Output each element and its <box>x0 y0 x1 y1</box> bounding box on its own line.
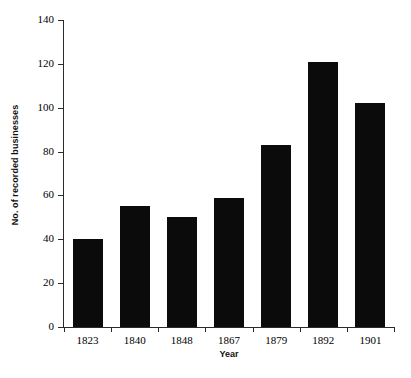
y-axis-tick: 20 <box>58 283 64 284</box>
bar <box>167 217 197 327</box>
y-axis-tick: 100 <box>58 108 64 109</box>
y-axis-tick-label: 0 <box>49 320 55 333</box>
y-axis-tick-label: 100 <box>38 101 55 114</box>
y-axis-tick-label: 140 <box>38 13 55 26</box>
x-axis-tick <box>394 328 395 332</box>
y-axis-tick: 40 <box>58 239 64 240</box>
x-axis-tick-label: 1901 <box>347 334 394 347</box>
x-axis-tick-label: 1840 <box>111 334 158 347</box>
y-axis-tick: 140 <box>58 20 64 21</box>
x-axis-title: Year <box>64 349 394 359</box>
y-axis-tick-label: 120 <box>38 57 55 70</box>
y-axis-tick-label: 40 <box>43 232 54 245</box>
y-axis-tick-label: 60 <box>43 188 54 201</box>
plot-area: 020406080100120140 182318401848186718791… <box>64 20 394 327</box>
bar-chart: No. of recorded businesses 0204060801001… <box>0 0 411 378</box>
x-axis-tick <box>64 328 65 332</box>
x-axis-tick <box>253 328 254 332</box>
bar <box>355 103 385 327</box>
y-axis-title: No. of recorded businesses <box>0 0 30 330</box>
x-axis-line <box>63 327 395 328</box>
y-axis-tick: 120 <box>58 64 64 65</box>
x-axis-tick <box>205 328 206 332</box>
y-axis-tick: 80 <box>58 152 64 153</box>
x-axis-tick <box>347 328 348 332</box>
y-axis-tick-label: 20 <box>43 276 54 289</box>
x-axis-tick-label: 1823 <box>64 334 111 347</box>
x-axis-tick-label: 1867 <box>205 334 252 347</box>
x-axis-tick <box>300 328 301 332</box>
y-axis-title-label: No. of recorded businesses <box>10 105 20 226</box>
bar <box>261 145 291 327</box>
x-axis-tick-label: 1879 <box>253 334 300 347</box>
bar <box>214 198 244 327</box>
bar <box>73 239 103 327</box>
bar <box>308 62 338 327</box>
x-axis-tick <box>158 328 159 332</box>
x-axis-tick <box>111 328 112 332</box>
y-axis-line <box>63 20 64 328</box>
x-axis-tick-label: 1848 <box>158 334 205 347</box>
bar <box>120 206 150 327</box>
y-axis-tick: 60 <box>58 195 64 196</box>
x-axis-tick-label: 1892 <box>300 334 347 347</box>
y-axis-tick-label: 80 <box>43 145 54 158</box>
